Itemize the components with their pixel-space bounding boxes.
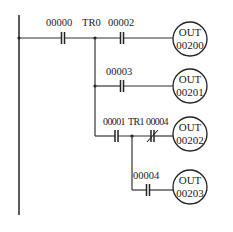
coil-label-line1: OUT [179,174,202,186]
contact-no-00001 [115,130,118,142]
coil-out-00201: OUT 00201 [173,69,207,103]
rung-1: 00000 TR0 00002 OUT 00200 [17,17,207,56]
contact-no-00002 [121,32,124,44]
coil-out-00200: OUT 00200 [173,22,207,56]
contact-label: 00003 [106,66,132,77]
coil-out-00202: OUT 00202 [173,117,207,151]
ladder-diagram: 00000 TR0 00002 OUT 00200 00003 OUT 0020 [0,0,233,232]
coil-out-00203: OUT 00203 [173,170,207,204]
coil-label-line2: 00203 [176,187,204,199]
coil-label-line1: OUT [179,121,202,133]
contact-label: 00004 [133,170,160,181]
coil-label-line2: 00200 [176,39,204,51]
coil-label-line1: OUT [179,26,202,38]
rung-4: 00004 OUT 00203 [132,170,207,204]
coil-label-line2: 00201 [176,86,204,98]
contact-no-00003 [121,80,124,92]
coil-label-line2: 00202 [176,134,204,146]
contact-label: 00001 [103,116,126,127]
branch-label: TR1 [128,116,145,127]
contact-label: 00004 [146,116,169,127]
rung-3: 00001 TR1 00004 OUT 00202 [95,116,207,151]
contact-label: 00000 [46,17,72,28]
contact-no-00000 [62,32,65,44]
contact-label: 00002 [108,17,134,28]
coil-label-line1: OUT [179,73,202,85]
branch-label: TR0 [82,17,101,28]
contact-no-00004 [147,184,150,196]
rung-2: 00003 OUT 00201 [93,66,207,103]
